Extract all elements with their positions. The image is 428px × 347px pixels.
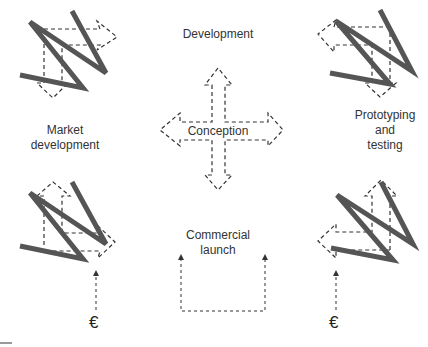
stage-label-commercial-launch: Commercial launch xyxy=(168,228,268,258)
zigzag-bottom-right xyxy=(331,182,413,260)
diagram-canvas xyxy=(0,0,428,347)
funding-arrows xyxy=(96,258,336,311)
stage-label-commercial-line1: Commercial xyxy=(168,228,268,243)
corner-mark xyxy=(0,342,12,344)
stage-label-proto-line1: Prototyping xyxy=(340,108,428,123)
stage-label-proto-line2: and xyxy=(340,123,428,138)
euro-icon-left: € xyxy=(89,313,98,333)
stage-label-conception: Conception xyxy=(168,124,268,139)
stage-label-market-development: Market development xyxy=(20,123,110,153)
zigzag-bottom-left xyxy=(20,182,106,259)
euro-icon-right: € xyxy=(329,313,338,333)
stage-label-development: Development xyxy=(168,27,268,42)
stage-label-market-line2: development xyxy=(20,138,110,153)
stage-label-commercial-line2: launch xyxy=(168,243,268,258)
zigzag-top-left xyxy=(20,11,106,88)
stage-label-prototyping-testing: Prototyping and testing xyxy=(340,108,428,153)
zigzag-top-right xyxy=(330,10,412,84)
stage-label-proto-line3: testing xyxy=(340,138,428,153)
stage-label-market-line1: Market xyxy=(20,123,110,138)
